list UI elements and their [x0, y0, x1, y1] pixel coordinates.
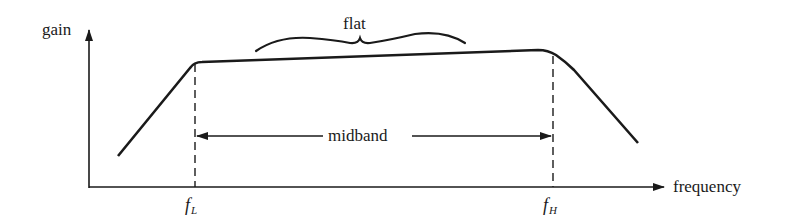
- flat-label: flat: [343, 15, 366, 32]
- fl-subscript: L: [191, 204, 197, 216]
- fl-label: fL: [185, 196, 197, 214]
- x-axis-label: frequency: [673, 178, 741, 195]
- fh-label: fH: [543, 196, 557, 214]
- fh-subscript: H: [549, 204, 557, 216]
- flat-brace: [256, 33, 465, 51]
- y-axis-label: gain: [42, 21, 71, 38]
- fl-symbol: f: [185, 195, 190, 215]
- fh-symbol: f: [543, 195, 548, 215]
- midband-label: midband: [328, 127, 388, 144]
